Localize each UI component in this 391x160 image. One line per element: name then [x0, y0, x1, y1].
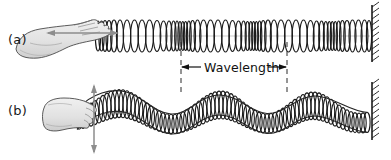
wave-illustration [0, 0, 391, 160]
panel-label-b: (b) [8, 103, 27, 118]
wavelength-label: Wavelength [204, 60, 279, 75]
panel-label-a: (a) [8, 32, 27, 47]
hand-b [43, 98, 97, 131]
hand-a [16, 20, 111, 58]
panel-a-longitudinal [16, 20, 372, 58]
fixed-wall [372, 2, 379, 140]
wave-figure: (a) (b) Wavelength [0, 0, 391, 160]
panel-b-transverse [43, 84, 371, 154]
